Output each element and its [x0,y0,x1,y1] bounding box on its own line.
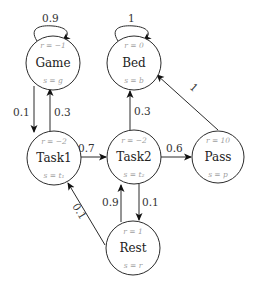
node-reward: r = 0 [124,41,144,50]
node-state: s = r [124,261,143,270]
edge-label: 1 [128,12,135,24]
edge-task1-task2: 0.7 [78,142,106,157]
edge-label: 0.9 [42,12,59,24]
node-state: s = t₂ [124,170,145,179]
edge-label: 1 [188,81,201,94]
node-reward: r = 10 [206,136,230,145]
node-bed: r = 0 Bed s = b [107,36,161,90]
edge-task2-bed: 0.3 [130,91,151,130]
node-state: s = b [124,76,144,85]
edge-label: 0.1 [142,196,159,208]
node-pass: r = 10 Pass s = p [192,131,244,183]
edge-task1-game: 0.3 [50,89,71,133]
node-name: Game [35,56,70,70]
node-state: s = p [208,170,228,179]
node-name: Rest [119,241,146,255]
edge-rest-task2: 0.9 [102,185,121,222]
edge-task2-rest: 0.1 [139,183,159,220]
edge-game-task1: 0.1 [13,86,34,132]
node-reward: r = −2 [41,137,67,146]
edge-pass-bed: 1 [157,75,218,130]
edge-label: 0.3 [54,106,71,118]
edge-label: 0.3 [134,105,151,117]
markov-diagram: 0.9 1 0.1 0.3 0.7 0.3 0.6 0.1 0.9 0.1 [0,0,256,286]
edge-task2-pass: 0.6 [161,142,191,157]
node-reward: r = 1 [123,227,142,236]
node-game: r = −1 Game s = g [26,36,80,90]
node-reward: r = −1 [40,41,66,50]
node-name: Pass [204,150,231,164]
node-rest: r = 1 Rest s = r [106,221,160,275]
node-name: Task2 [116,150,151,164]
edge-label: 0.9 [102,196,119,208]
edge-rest-task1: 0.1 [68,183,105,245]
node-name: Bed [122,56,146,70]
edge-label: 0.6 [166,142,183,154]
node-reward: r = −2 [121,136,147,145]
node-state: s = g [43,76,63,85]
node-state: s = t₁ [44,171,65,180]
node-task2: r = −2 Task2 s = t₂ [107,130,161,184]
node-name: Task1 [36,151,71,165]
edge-label: 0.1 [70,201,89,221]
node-task1: r = −2 Task1 s = t₁ [27,131,81,185]
edge-label: 0.1 [13,106,30,118]
